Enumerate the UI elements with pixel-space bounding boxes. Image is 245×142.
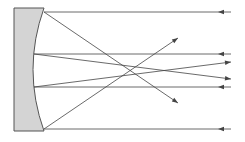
arrowhead-icon [218, 85, 224, 89]
ray-incoming-bottom [44, 127, 231, 131]
ray-incoming-upper-mid [34, 52, 231, 56]
concave-mirror-diagram [0, 0, 245, 142]
ray-incoming-top [44, 10, 231, 14]
arrowhead-icon [225, 76, 231, 80]
light-rays [34, 10, 231, 131]
mirror-body [14, 8, 44, 131]
concave-mirror [14, 8, 44, 131]
arrowhead-icon [172, 98, 178, 103]
ray-reflected-lower-mid [34, 61, 231, 87]
ray-incoming-lower-mid [34, 85, 231, 89]
ray-reflected-upper-mid [34, 54, 231, 80]
arrowhead-icon [218, 52, 224, 56]
arrowhead-icon [225, 61, 231, 65]
arrowhead-icon [218, 10, 224, 14]
arrowhead-icon [172, 38, 178, 43]
arrowhead-icon [218, 127, 224, 131]
